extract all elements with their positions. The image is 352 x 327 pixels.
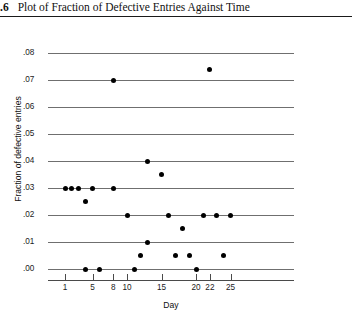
y-axis-title: Fraction of defective entries <box>13 79 23 219</box>
data-point <box>201 213 206 218</box>
x-axis-tick-label: 1 <box>53 283 77 292</box>
data-point <box>83 267 88 272</box>
x-axis-line <box>48 280 294 281</box>
x-axis-tick-label: 10 <box>115 283 139 292</box>
x-axis-tick <box>65 274 66 280</box>
gridline <box>48 215 294 216</box>
y-axis-tick-label: .07 <box>23 75 45 84</box>
y-axis-tick-label: .03 <box>23 183 45 192</box>
x-axis-tick <box>231 274 232 280</box>
data-point <box>69 186 74 191</box>
x-axis-tick-label: 15 <box>150 283 174 292</box>
x-axis-tick <box>210 274 211 280</box>
gridline <box>48 80 294 81</box>
gridline <box>48 161 294 162</box>
x-axis-tick <box>127 274 128 280</box>
scatter-plot: .00.01.02.03.04.05.06.07.08 Fraction of … <box>0 16 352 327</box>
data-point <box>111 186 116 191</box>
data-point <box>111 78 116 83</box>
figure-page: .6 Plot of Fraction of Defective Entries… <box>0 0 352 327</box>
y-axis-tick-label: .00 <box>23 264 45 273</box>
y-axis-tick-label: .06 <box>23 102 45 111</box>
x-axis-tick <box>162 274 163 280</box>
data-point <box>83 199 88 204</box>
data-point <box>145 159 150 164</box>
data-point <box>173 253 178 258</box>
data-point <box>214 213 219 218</box>
x-axis-tick <box>93 274 94 280</box>
y-axis-tick-label: .02 <box>23 210 45 219</box>
data-point <box>180 226 185 231</box>
x-axis-tick <box>196 274 197 280</box>
data-point <box>76 186 81 191</box>
y-axis-tick-label: .05 <box>23 129 45 138</box>
y-axis-tick-label: .01 <box>23 237 45 246</box>
data-point <box>166 213 171 218</box>
data-point <box>97 267 102 272</box>
data-point <box>228 213 233 218</box>
figure-title: Plot of Fraction of Defective Entries Ag… <box>9 0 250 14</box>
data-point <box>132 267 137 272</box>
data-point <box>138 253 143 258</box>
gridline <box>48 242 294 243</box>
figure-caption: .6 Plot of Fraction of Defective Entries… <box>0 0 352 16</box>
gridline <box>48 134 294 135</box>
y-axis-tick-label: .04 <box>23 156 45 165</box>
data-point <box>221 253 226 258</box>
y-axis-tick-label: .08 <box>23 48 45 57</box>
x-axis-tick <box>113 274 114 280</box>
data-point <box>187 253 192 258</box>
data-point <box>63 186 68 191</box>
data-point <box>125 213 130 218</box>
figure-number: .6 <box>0 0 9 14</box>
data-point <box>145 240 150 245</box>
data-point <box>207 67 212 72</box>
x-axis-title: Day <box>48 300 294 310</box>
x-axis-tick-label: 25 <box>219 283 243 292</box>
gridline <box>48 107 294 108</box>
gridline <box>48 188 294 189</box>
data-point <box>159 172 164 177</box>
data-point <box>194 267 199 272</box>
data-point <box>90 186 95 191</box>
gridline <box>48 53 294 54</box>
